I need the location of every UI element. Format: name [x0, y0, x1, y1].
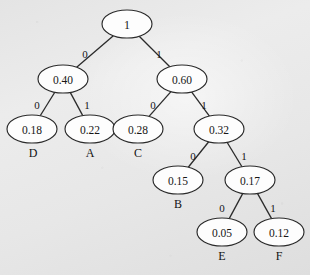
edge-bit-label-n0-n1: 0 [82, 48, 88, 60]
node-value-n7: 0.15 [168, 175, 188, 187]
tree-edge-n8-n9 [229, 193, 243, 218]
edge-bit-label-n1-n4: 1 [84, 99, 90, 111]
edge-bit-label-n8-n9: 0 [219, 202, 225, 214]
leaf-symbol-C: C [134, 146, 142, 160]
huffman-tree-figure: 10.400.600.180.220.280.320.150.170.050.1… [0, 0, 310, 275]
tree-node-n0: 1 [102, 10, 152, 38]
node-value-n1: 0.40 [53, 74, 73, 86]
tree-edge-n6-n8 [227, 142, 242, 167]
leaf-symbol-A: A [86, 146, 95, 160]
node-value-n5: 0.28 [128, 124, 148, 136]
tree-node-n9: 0.05 [197, 218, 247, 246]
node-value-n2: 0.60 [172, 74, 192, 86]
edge-bit-label-n2-n6: 1 [201, 99, 207, 111]
tree-node-n10: 0.12 [254, 218, 304, 246]
tree-node-n3: 0.18 [7, 115, 57, 143]
tree-node-n5: 0.28 [113, 115, 163, 143]
tree-node-n8: 0.17 [225, 166, 275, 194]
node-value-n9: 0.05 [212, 227, 232, 239]
node-value-n4: 0.22 [80, 124, 100, 136]
tree-canvas: 10.400.600.180.220.280.320.150.170.050.1… [0, 0, 310, 275]
node-value-n10: 0.12 [269, 227, 289, 239]
edge-bit-label-n6-n7: 0 [190, 150, 196, 162]
tree-node-n6: 0.32 [194, 115, 244, 143]
node-value-n6: 0.32 [209, 124, 229, 136]
edge-bit-label-n8-n10: 1 [270, 202, 276, 214]
tree-edge-n0-n2 [139, 36, 170, 67]
tree-node-n1: 0.40 [38, 65, 88, 93]
edge-bit-label-n6-n8: 1 [241, 150, 247, 162]
nodes-layer: 10.400.600.180.220.280.320.150.170.050.1… [7, 10, 304, 246]
tree-node-n2: 0.60 [157, 65, 207, 93]
edge-bit-label-n2-n5: 0 [150, 99, 156, 111]
leaf-letters-layer: DACBEF [29, 146, 283, 263]
edge-bit-label-n0-n2: 1 [156, 48, 162, 60]
leaf-symbol-F: F [276, 249, 283, 263]
tree-node-n4: 0.22 [65, 115, 115, 143]
leaf-symbol-E: E [218, 249, 225, 263]
tree-edge-n1-n4 [70, 92, 83, 115]
node-value-n3: 0.18 [22, 124, 42, 136]
node-value-n0: 1 [124, 18, 130, 32]
node-value-n8: 0.17 [240, 175, 260, 187]
leaf-symbol-B: B [174, 197, 182, 211]
tree-edge-n1-n3 [40, 92, 55, 116]
edge-bit-label-n1-n3: 0 [34, 99, 40, 111]
tree-node-n7: 0.15 [153, 166, 203, 194]
leaf-symbol-D: D [29, 146, 38, 160]
